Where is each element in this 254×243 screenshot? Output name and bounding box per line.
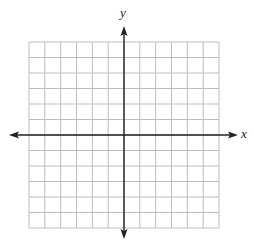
y-axis-label: y	[120, 6, 126, 19]
x-axis-label: x	[241, 127, 247, 140]
coordinate-plane	[0, 0, 254, 243]
